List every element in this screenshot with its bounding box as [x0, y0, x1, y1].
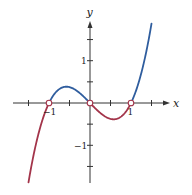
y-axis-arrow-icon — [88, 21, 93, 28]
graph: x y −1 1 1 −1 — [0, 0, 192, 195]
x-axis-arrow-icon — [163, 101, 170, 106]
y-tick-label-pos1: 1 — [81, 56, 87, 66]
zero-marker — [46, 100, 52, 106]
y-axis-label: y — [86, 6, 94, 19]
x-axis-label: x — [173, 97, 180, 110]
x-tick-label-pos1: 1 — [128, 107, 134, 117]
zero-marker — [128, 100, 134, 106]
y-tick-label-neg1: −1 — [74, 141, 87, 151]
curve-positive-segments — [49, 24, 152, 103]
x-tick-label-neg1: −1 — [43, 107, 56, 117]
zero-marker — [87, 100, 93, 106]
